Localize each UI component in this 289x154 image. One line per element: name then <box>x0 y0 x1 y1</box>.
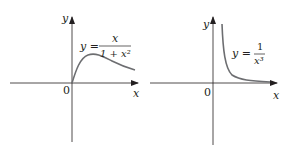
svg-text:x³: x³ <box>254 55 264 66</box>
svg-text:1 + x²: 1 + x² <box>100 48 131 59</box>
svg-text:y =: y = <box>79 40 99 53</box>
left-chart: y 0 x y = x 1 + x² <box>10 12 140 142</box>
left-y-label: y <box>61 12 69 25</box>
svg-text:y =: y = <box>231 47 251 60</box>
left-x-label: x <box>133 87 140 100</box>
right-x-label: x <box>273 89 280 102</box>
left-origin-label: 0 <box>63 84 70 97</box>
figure: y 0 x y = x 1 + x² y 0 x y = 1 x³ <box>0 0 289 154</box>
right-y-label: y <box>202 18 210 31</box>
svg-text:x: x <box>112 32 119 45</box>
svg-text:1: 1 <box>257 41 263 52</box>
right-origin-label: 0 <box>204 86 211 99</box>
right-equation: y = 1 x³ <box>231 41 265 66</box>
right-chart: y 0 x y = 1 x³ <box>150 17 280 145</box>
